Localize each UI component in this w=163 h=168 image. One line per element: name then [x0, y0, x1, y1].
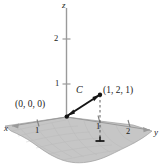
z-tick-label-2: 2: [54, 34, 58, 43]
y-tick-label-2: 2: [126, 127, 130, 136]
z-axis: [63, 8, 71, 117]
terminal-point-label: (1, 2, 1): [103, 86, 133, 96]
curve-c-label: C: [76, 85, 83, 95]
z-axis-label: z: [62, 1, 66, 10]
x-axis-label: x: [4, 124, 8, 133]
y-axis-label: y: [154, 128, 158, 137]
vector-field-diagram: z 2 1 x 1 y 1 2 (0, 0, 0) (1, 2, 1) C: [0, 0, 163, 168]
z-tick-label-1: 1: [55, 79, 59, 88]
y-tick-label-1: 1: [96, 122, 100, 131]
origin-point-label: (0, 0, 0): [15, 100, 45, 110]
vector-c: [65, 93, 103, 119]
x-tick-label-1: 1: [35, 126, 39, 135]
